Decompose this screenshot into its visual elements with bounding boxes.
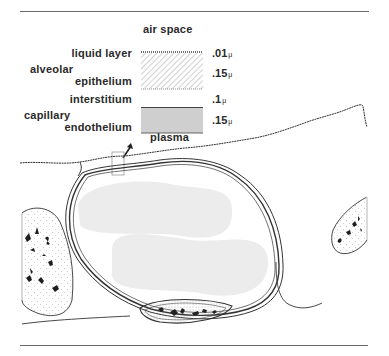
red-blood-cell-2 [112,234,268,296]
right-cell-nucleus [332,197,367,254]
bottom-rule [20,345,368,346]
interstitial-line-left [22,316,130,324]
red-blood-cell-1 [78,182,232,238]
capillary-diagram [0,0,389,356]
legend-swatches [141,52,203,133]
epithelium-swatch [141,53,203,89]
endothelial-nucleus [140,300,232,324]
endothelium-swatch [141,107,203,133]
left-cell-nucleus [22,208,73,316]
